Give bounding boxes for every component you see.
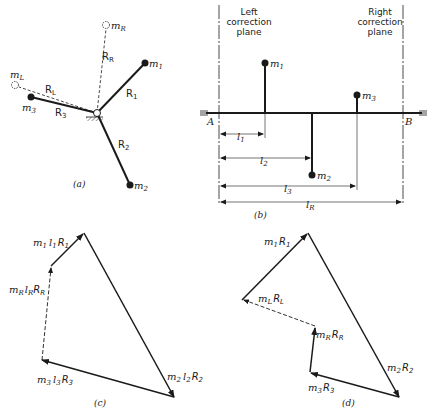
- svg-text:RL: RL: [45, 84, 56, 97]
- label-m2l2R2: m2l2R2: [167, 371, 204, 384]
- label-mRRR: mRRR: [316, 329, 344, 342]
- balancing-diagram: m1 m2 m3 mL mR R1 R2 R3 RL RR (a) Left c…: [0, 0, 436, 417]
- mass-m3: [28, 94, 35, 101]
- svg-text:m2: m2: [134, 180, 148, 193]
- label-m1l1R1: m1l1R1: [33, 237, 69, 250]
- svg-text:correction: correction: [357, 17, 402, 27]
- arm-RR: [97, 29, 106, 113]
- arm-R1: [97, 63, 145, 113]
- svg-text:m3: m3: [22, 102, 36, 115]
- caption-b: (b): [254, 210, 267, 220]
- vector-mRRR: [310, 328, 315, 372]
- label-mRlRRR: mRlRRR: [9, 284, 45, 297]
- svg-text:mL: mL: [10, 69, 24, 82]
- figure-d-force-polygon: m1R1 mLRL mRRR m3R3 m2R2 (d): [242, 233, 414, 408]
- svg-text:R1: R1: [126, 88, 137, 101]
- caption-d: (d): [342, 398, 355, 408]
- mass-m2-side: [309, 172, 316, 179]
- vector-mRlRRR: [42, 268, 51, 360]
- ground-hatch: [86, 117, 103, 121]
- mass-m1: [142, 60, 149, 67]
- label-m3l3R3: m3l3R3: [37, 374, 73, 387]
- label-m2R2: m2R2: [387, 362, 414, 375]
- svg-text:l1: l1: [237, 131, 245, 144]
- correction-mass-mL: [12, 82, 19, 89]
- svg-text:Left: Left: [241, 7, 258, 17]
- svg-text:l3: l3: [284, 183, 292, 196]
- svg-text:R2: R2: [118, 139, 129, 152]
- shaft-end-left: [200, 111, 208, 115]
- mass-m2: [127, 182, 134, 189]
- caption-c: (c): [94, 398, 107, 408]
- end-A-label: A: [206, 116, 214, 127]
- end-B-label: B: [404, 116, 412, 127]
- svg-text:m1: m1: [149, 58, 163, 71]
- svg-text:m1: m1: [270, 58, 284, 71]
- arm-R3: [31, 97, 97, 113]
- svg-text:lR: lR: [306, 199, 315, 212]
- label-m3R3: m3R3: [308, 382, 334, 395]
- svg-text:correction: correction: [226, 17, 271, 27]
- figure-c-moment-polygon: m1l1R1 mRlRRR m3l3R3 m2l2R2 (c): [9, 233, 204, 408]
- vector-m2l2R2: [84, 233, 174, 397]
- figure-a-end-view: m1 m2 m3 mL mR R1 R2 R3 RL RR (a): [10, 20, 163, 193]
- vector-m1l1R1: [51, 234, 83, 266]
- svg-text:m2: m2: [317, 170, 331, 183]
- svg-text:RR: RR: [102, 51, 114, 64]
- figure-b-side-view: Left correction plane Right correction p…: [200, 5, 427, 220]
- svg-text:l2: l2: [260, 155, 268, 168]
- svg-text:plane: plane: [368, 27, 393, 37]
- svg-text:m3: m3: [362, 90, 376, 103]
- pivot-bearing: [94, 110, 101, 117]
- svg-text:R3: R3: [55, 107, 66, 120]
- label-mLRL: mLRL: [258, 293, 284, 306]
- label-m1R1: m1R1: [264, 236, 290, 249]
- caption-a: (a): [73, 179, 86, 189]
- vector-m2R2: [308, 233, 399, 397]
- mass-m3-side: [354, 92, 361, 99]
- mass-m1-side: [262, 60, 269, 67]
- svg-text:mR: mR: [111, 20, 126, 33]
- svg-text:plane: plane: [237, 27, 262, 37]
- svg-text:Right: Right: [368, 7, 392, 17]
- correction-mass-mR: [103, 22, 110, 29]
- shaft-end-right: [419, 111, 427, 115]
